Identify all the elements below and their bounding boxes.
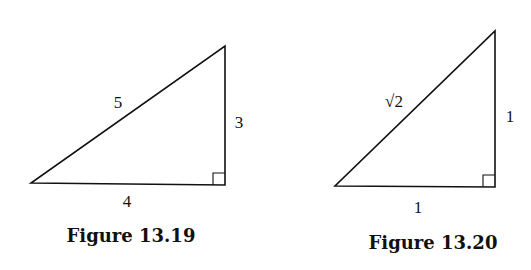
right-angle-marker [213, 173, 225, 185]
horizontal-leg-label: 4 [123, 192, 132, 211]
figure-caption: Figure 13.19 [67, 225, 196, 246]
figure-13-20: √2 1 1 Figure 13.20 [335, 31, 514, 253]
triangle-1-1-sqrt2 [335, 31, 495, 187]
figures-canvas: 5 3 4 Figure 13.19 √2 1 1 Figure 13.20 [0, 0, 531, 270]
figure-13-19: 5 3 4 Figure 13.19 [31, 46, 243, 246]
right-angle-marker [483, 175, 495, 187]
triangle-3-4-5 [31, 46, 225, 185]
hypotenuse-label: 5 [114, 93, 123, 112]
horizontal-leg-label: 1 [414, 198, 423, 217]
vertical-leg-label: 1 [506, 107, 515, 126]
figure-caption: Figure 13.20 [369, 232, 498, 253]
vertical-leg-label: 3 [235, 113, 244, 132]
hypotenuse-label: √2 [385, 92, 403, 111]
